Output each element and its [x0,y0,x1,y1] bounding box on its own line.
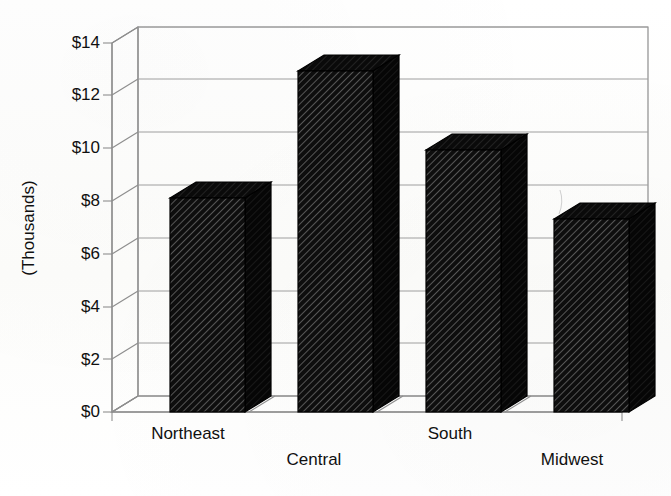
tick-depth-14 [112,27,138,43]
bar-south-front-face [426,150,501,412]
bar-central-front-face [298,71,373,412]
bar-midwest[interactable] [554,203,655,412]
left-wall [112,27,138,412]
plot-area [0,0,671,496]
bar-midwest-side-face [629,203,655,412]
x-tick-label-south: South [390,424,510,444]
bar-central-side-face [373,55,399,412]
bar-central[interactable] [298,55,399,412]
x-tick-label-central: Central [254,450,374,470]
tick-depth-4 [112,291,138,307]
bar-chart-figure: $14 $12 $10 $8 $6 $4 $2 $0 (Thousands) [0,0,671,496]
tick-depth-2 [112,343,138,359]
bar-northeast-side-face [245,182,271,412]
bar-northeast[interactable] [170,182,271,412]
tick-depth-12 [112,79,138,95]
x-tick-label-midwest: Midwest [512,450,632,470]
bar-south-side-face [501,134,527,412]
bar-south[interactable] [426,134,527,412]
tick-depth-8 [112,185,138,201]
tick-depth-6 [112,238,138,254]
x-tick-label-northeast: Northeast [128,424,248,444]
tick-depth-0 [112,396,138,412]
scan-artifact [559,190,562,214]
tick-depth-10 [112,132,138,148]
bar-northeast-front-face [170,198,245,412]
bar-midwest-front-face [554,219,629,412]
y-axis-ticks [103,27,138,412]
